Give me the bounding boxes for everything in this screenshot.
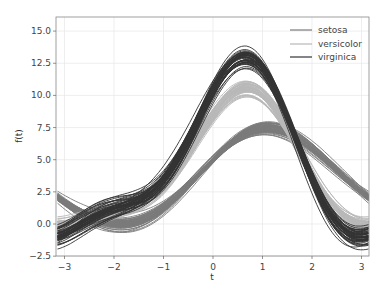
legend: setosa versicolor virginica [290,25,362,62]
legend-item-versicolor: versicolor [290,39,362,49]
x-axis-ticks: −3−2−10123 [58,256,365,272]
y-tick-label: 15.0 [31,26,51,36]
y-tick-label: 2.5 [37,187,51,197]
y-tick-label: 0.0 [37,219,52,229]
y-tick-label: 10.0 [31,90,51,100]
x-tick-label: 1 [260,262,266,272]
x-tick-label: 3 [359,262,365,272]
y-axis-ticks: −2.50.02.55.07.510.012.515.0 [29,26,56,261]
legend-item-setosa: setosa [290,25,347,35]
x-tick-label: −3 [58,262,71,272]
x-axis-label: t [210,272,214,282]
legend-label-setosa: setosa [318,25,347,35]
x-tick-label: 2 [309,262,315,272]
y-tick-label: −2.5 [29,251,51,261]
y-tick-label: 7.5 [37,123,51,133]
x-tick-label: 0 [210,262,216,272]
x-tick-label: −2 [107,262,120,272]
y-tick-label: 5.0 [37,155,52,165]
andrews-curves-chart: −3−2−10123 −2.50.02.55.07.510.012.515.0 … [0,0,387,294]
legend-label-versicolor: versicolor [318,39,362,49]
y-tick-label: 12.5 [31,58,51,68]
legend-item-virginica: virginica [290,52,356,62]
x-tick-label: −1 [157,262,170,272]
y-axis-label: f(t) [14,129,24,143]
legend-label-virginica: virginica [318,52,356,62]
